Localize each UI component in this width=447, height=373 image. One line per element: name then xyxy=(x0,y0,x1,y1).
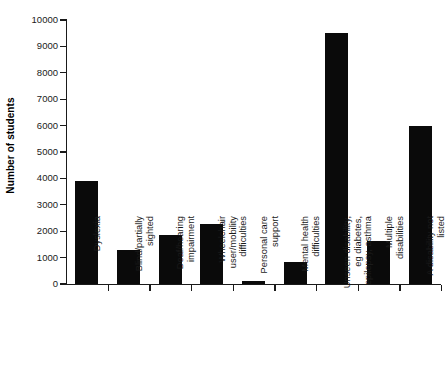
y-axis-tick-label-text: 7000 xyxy=(18,94,58,104)
y-axis-tick-label-text: 6000 xyxy=(18,121,58,131)
x-axis-label-line: Mental health xyxy=(300,216,311,294)
y-axis-tick xyxy=(60,283,67,284)
x-axis-label-line: A disability not xyxy=(425,216,436,294)
y-axis-tick xyxy=(60,204,67,205)
x-axis-tick xyxy=(108,285,109,291)
y-axis-tick-label: 8000 xyxy=(12,68,58,78)
x-axis-label-text: Deaf/hearingimpairment xyxy=(175,216,196,294)
x-axis-label-line: user/mobility xyxy=(227,216,238,294)
x-axis-label-line: Deaf/hearing xyxy=(175,216,186,294)
x-axis-label-line: eg diabetes, xyxy=(352,216,363,294)
x-axis-label-line: Dyslexia xyxy=(92,216,103,294)
y-axis-tick xyxy=(60,257,67,258)
x-axis-label-line: disabilities xyxy=(394,216,405,294)
x-axis-label-text: Multipledisabilities xyxy=(384,216,405,294)
y-axis-tick-label: 2000 xyxy=(12,226,58,236)
x-axis-label-text: Blind/partiallysighted xyxy=(134,216,155,294)
y-axis-tick xyxy=(60,125,67,126)
x-axis-label-line: impairment xyxy=(186,216,197,294)
y-axis-tick xyxy=(60,178,67,179)
y-axis-tick-label-text: 0 xyxy=(18,279,58,289)
plot-area: 0100020003000400050006000700080009000100… xyxy=(0,0,447,373)
y-axis-tick-label-text: 3000 xyxy=(18,200,58,210)
x-axis-label-text: Mental healthdifficulties xyxy=(300,216,321,294)
y-axis-tick-label: 1000 xyxy=(12,253,58,263)
y-axis-tick-label-text: 10000 xyxy=(18,15,58,25)
x-axis-label-line: Wheelchair xyxy=(217,216,228,294)
y-axis-tick-label: 6000 xyxy=(12,121,58,131)
y-axis-tick-label-text: 5000 xyxy=(18,147,58,157)
y-axis-tick xyxy=(60,72,67,73)
x-axis-label-line: Blind/partially xyxy=(134,216,145,294)
y-axis-tick-label: 5000 xyxy=(12,147,58,157)
x-axis-label-line: epilepsy, asthma xyxy=(363,216,374,294)
x-axis-label-line: sighted xyxy=(144,216,155,294)
x-axis-label-text: A disability notlisted xyxy=(425,216,446,294)
y-axis-tick-label: 10000 xyxy=(12,15,58,25)
x-axis-label-line: Personal care xyxy=(259,216,270,294)
y-axis-tick xyxy=(60,151,67,152)
y-axis-tick xyxy=(60,99,67,100)
x-axis-label-line: difficulties xyxy=(238,216,249,294)
x-axis-label-text: Personal caresupport xyxy=(259,216,280,294)
y-axis-tick xyxy=(60,46,67,47)
y-axis-tick-label: 7000 xyxy=(12,94,58,104)
y-axis-tick-label-text: 8000 xyxy=(18,68,58,78)
bar-chart: Number of students 010002000300040005000… xyxy=(0,0,447,373)
x-axis-label-line: Unseen disability, xyxy=(342,216,353,294)
y-axis-tick-label-text: 9000 xyxy=(18,41,58,51)
y-axis-tick xyxy=(60,231,67,232)
y-axis-tick-label-text: 2000 xyxy=(18,226,58,236)
x-axis-label-line: difficulties xyxy=(311,216,322,294)
x-axis-label-text: Wheelchairuser/mobilitydifficulties xyxy=(217,216,249,294)
y-axis-tick-label: 4000 xyxy=(12,173,58,183)
x-axis-label-line: Multiple xyxy=(384,216,395,294)
x-axis-label-text: Unseen disability,eg diabetes,epilepsy, … xyxy=(342,216,374,294)
y-axis-tick-label: 0 xyxy=(12,279,58,289)
y-axis-tick-label-text: 4000 xyxy=(18,173,58,183)
y-axis-tick-label-text: 1000 xyxy=(18,253,58,263)
y-axis-tick-label: 9000 xyxy=(12,41,58,51)
y-axis-tick-label: 3000 xyxy=(12,200,58,210)
x-axis-label-text: Dyslexia xyxy=(92,216,103,294)
y-axis-tick xyxy=(60,19,67,20)
x-axis-label-line: listed xyxy=(436,216,447,294)
x-axis-label-line: support xyxy=(269,216,280,294)
